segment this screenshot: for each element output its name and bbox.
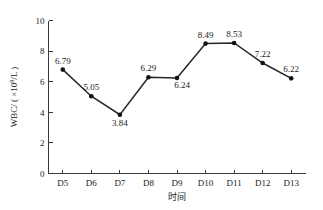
x-tick-label: D12 [255,178,271,188]
data-point-label: 6.22 [283,64,299,74]
data-point-label: 6.29 [141,63,157,73]
y-tick-label: 6 [40,77,45,87]
x-tick-label: D5 [57,178,68,188]
y-tick-label: 0 [40,169,45,179]
x-tick-label: D11 [227,178,242,188]
x-axis-title: 时间 [168,191,186,202]
data-point-marker [118,112,123,117]
y-tick-label: 10 [36,16,46,26]
x-tick-label: D7 [114,178,125,188]
data-point-label: 8.49 [198,30,214,40]
line-chart: 0246810 D5D6D7D8D9D10D11D12D13 6.795.053… [0,0,323,210]
data-point-label: 3.84 [112,118,128,128]
y-axis-title: WBC/ ( ×109/L ) [8,67,19,128]
x-tick-label: D8 [143,178,154,188]
data-point-marker [260,61,265,66]
x-tick-label: D13 [283,178,299,188]
data-point-label: 7.22 [255,49,271,59]
data-point-label: 6.24 [174,80,190,90]
data-point-marker [232,41,237,46]
data-point-marker [89,94,94,99]
x-tick-label: D6 [86,178,97,188]
data-point-label: 8.53 [226,29,242,39]
x-axis-tick-labels: D5D6D7D8D9D10D11D12D13 [57,178,299,188]
data-point-marker [146,75,151,80]
data-point-marker [203,41,208,46]
chart-canvas: 0246810 D5D6D7D8D9D10D11D12D13 6.795.053… [0,0,323,210]
data-point-marker [289,76,294,81]
y-tick-label: 2 [40,138,45,148]
y-tick-label: 4 [40,108,45,118]
x-tick-label: D9 [172,178,183,188]
x-tick-label: D10 [198,178,214,188]
y-tick-label: 8 [40,46,45,56]
data-point-label: 6.79 [55,56,71,66]
data-point-marker [60,67,65,72]
data-point-label: 5.05 [83,82,99,92]
